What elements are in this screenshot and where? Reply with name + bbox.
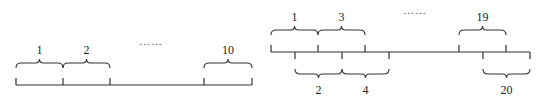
segment-label: 2: [84, 43, 90, 57]
brace-icon: [318, 26, 365, 35]
segment-label: 19: [477, 10, 489, 24]
ellipsis: ……: [139, 35, 163, 47]
brace-icon: [295, 69, 342, 78]
diagram-non-overlapping: 1210……: [16, 35, 252, 85]
brace-icon: [63, 59, 110, 68]
segment-label: 20: [501, 83, 513, 97]
diagram-overlapping: 13192420……: [271, 4, 530, 97]
segment-label: 3: [339, 10, 345, 24]
segment-label: 2: [316, 83, 322, 97]
brace-icon: [483, 69, 530, 78]
brace-icon: [459, 26, 506, 35]
segment-diagram: 1210…… 13192420……: [0, 0, 542, 111]
brace-icon: [271, 26, 318, 35]
segment-label: 1: [37, 43, 43, 57]
ellipsis: ……: [403, 4, 427, 16]
segment-label: 1: [292, 10, 298, 24]
segment-label: 4: [363, 83, 369, 97]
segment-label: 10: [222, 43, 234, 57]
brace-icon: [342, 69, 389, 78]
brace-icon: [16, 59, 63, 68]
brace-icon: [204, 59, 252, 68]
